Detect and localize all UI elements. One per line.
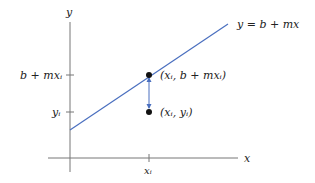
fitted-point	[146, 72, 152, 78]
regression-residual-diagram: y x y = b + mx b + mxᵢ yᵢ xᵢ (xᵢ, b + mx…	[0, 0, 315, 183]
y-tick-lower-label: yᵢ	[51, 106, 60, 119]
regression-line-label: y = b + mx	[236, 18, 300, 31]
y-axis-label: y	[65, 6, 73, 19]
x-tick-label: xᵢ	[144, 165, 152, 176]
fitted-point-label: (xᵢ, b + mxᵢ)	[160, 69, 226, 82]
x-axis-label: x	[244, 152, 251, 165]
observed-point-label: (xᵢ, yᵢ)	[160, 106, 192, 119]
arrow-head-icon	[147, 104, 152, 109]
y-tick-upper-label: b + mxᵢ	[20, 69, 62, 82]
observed-point	[146, 109, 152, 115]
